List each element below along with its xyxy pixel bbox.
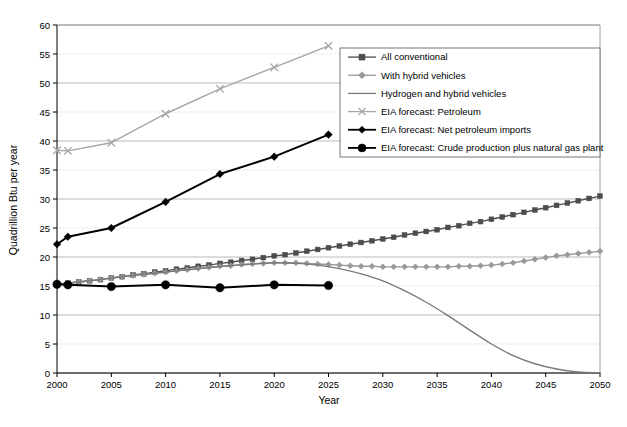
legend-item-label: Hydrogen and hybrid vehicles: [381, 88, 506, 99]
svg-text:55: 55: [39, 49, 50, 60]
svg-text:2020: 2020: [264, 379, 285, 390]
legend-item-label: EIA forecast: Crude production plus natu…: [381, 142, 604, 153]
legend-item-5[interactable]: EIA forecast: Crude production plus natu…: [348, 142, 604, 153]
svg-text:60: 60: [39, 20, 50, 31]
svg-text:2040: 2040: [481, 379, 502, 390]
x-axis-title: Year: [318, 394, 340, 406]
svg-text:2010: 2010: [155, 379, 176, 390]
svg-text:45: 45: [39, 107, 50, 118]
legend-item-label: EIA forecast: Petroleum: [381, 106, 481, 117]
svg-text:2050: 2050: [589, 379, 610, 390]
legend-item-label: With hybrid vehicles: [381, 70, 466, 81]
svg-text:2035: 2035: [427, 379, 448, 390]
svg-text:30: 30: [39, 194, 50, 205]
legend[interactable]: All conventionalWith hybrid vehiclesHydr…: [340, 48, 604, 157]
svg-text:5: 5: [45, 339, 50, 350]
svg-text:15: 15: [39, 281, 50, 292]
line-chart: 605550454035302520151050 200020052010201…: [0, 0, 627, 427]
svg-text:20: 20: [39, 252, 50, 263]
svg-text:25: 25: [39, 223, 50, 234]
figure-container: 605550454035302520151050 200020052010201…: [0, 0, 627, 427]
svg-text:40: 40: [39, 136, 50, 147]
svg-text:2000: 2000: [46, 379, 67, 390]
y-axis-title: Quadrillion Btu per year: [7, 144, 19, 255]
svg-text:2015: 2015: [209, 379, 230, 390]
legend-item-label: All conventional: [381, 51, 448, 62]
svg-text:2025: 2025: [318, 379, 339, 390]
svg-text:50: 50: [39, 78, 50, 89]
svg-text:35: 35: [39, 165, 50, 176]
svg-text:2045: 2045: [535, 379, 556, 390]
svg-text:2005: 2005: [101, 379, 122, 390]
svg-text:10: 10: [39, 310, 50, 321]
svg-text:2030: 2030: [372, 379, 393, 390]
legend-item-label: EIA forecast: Net petroleum imports: [381, 124, 531, 135]
svg-text:0: 0: [45, 368, 50, 379]
